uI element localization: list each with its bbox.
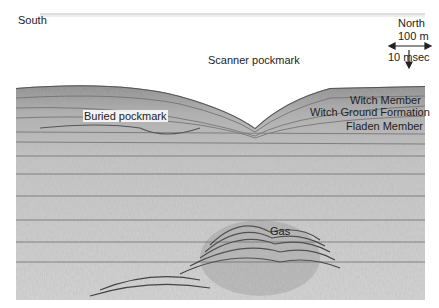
seismic-profile-figure: South North 100 m 10 msec Scanner pockma… xyxy=(0,0,439,308)
scanner-pockmark-label: Scanner pockmark xyxy=(208,54,300,66)
seismic-section xyxy=(0,0,439,308)
fladen-member-label: Fladen Member xyxy=(346,120,423,132)
scale-horizontal-label: 100 m xyxy=(398,30,429,42)
scale-vertical-label: 10 msec xyxy=(388,51,430,63)
north-label: North xyxy=(398,17,425,29)
buried-pockmark-label: Buried pockmark xyxy=(83,110,168,122)
witch-member-label: Witch Member xyxy=(350,94,421,106)
south-label: South xyxy=(18,14,47,26)
witch-ground-formation-label: Witch Ground Formation xyxy=(310,106,430,118)
gas-label: Gas xyxy=(270,225,290,237)
